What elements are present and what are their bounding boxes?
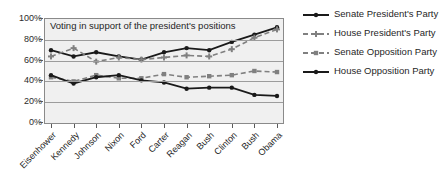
y-tick-mark bbox=[39, 18, 43, 19]
legend-label: House President's Party bbox=[334, 27, 436, 38]
y-tick-label: 100% bbox=[2, 14, 42, 23]
legend-marker-icon bbox=[302, 47, 330, 61]
data-series-layer bbox=[45, 19, 283, 123]
gridline bbox=[45, 40, 283, 41]
gridline bbox=[45, 81, 283, 82]
y-tick-mark bbox=[39, 80, 43, 81]
x-tick-mark bbox=[254, 124, 255, 128]
data-point bbox=[161, 54, 167, 60]
x-tick-mark bbox=[119, 124, 120, 128]
data-point bbox=[230, 73, 234, 77]
data-point bbox=[184, 86, 188, 90]
chart-legend: Senate President's PartyHouse President'… bbox=[302, 8, 446, 84]
x-tick-mark bbox=[164, 124, 165, 128]
data-point bbox=[94, 75, 98, 79]
x-tick-mark bbox=[187, 124, 188, 128]
x-tick-mark bbox=[232, 124, 233, 128]
data-point bbox=[275, 70, 279, 74]
x-tick-mark bbox=[96, 124, 97, 128]
data-point bbox=[48, 53, 54, 59]
chart-figure: 0%20%40%60%80%100% Voting in support of … bbox=[0, 0, 446, 188]
data-point bbox=[206, 53, 212, 59]
legend-marker-icon bbox=[302, 9, 330, 23]
data-point bbox=[207, 85, 211, 89]
chart-title: Voting in support of the president's pos… bbox=[50, 20, 236, 31]
data-point bbox=[207, 48, 211, 52]
data-point bbox=[49, 73, 53, 77]
legend-item[interactable]: House Opposition Party bbox=[302, 65, 446, 80]
data-point bbox=[230, 85, 234, 89]
gridline bbox=[45, 61, 283, 62]
y-tick-label: 20% bbox=[2, 97, 42, 106]
x-tick-mark bbox=[209, 124, 210, 128]
data-point bbox=[117, 73, 121, 77]
x-tick-mark bbox=[51, 124, 52, 128]
y-tick-mark bbox=[39, 39, 43, 40]
y-tick-mark bbox=[39, 122, 43, 123]
data-point bbox=[162, 50, 166, 54]
chart-plot-region: 0%20%40%60%80%100% Voting in support of … bbox=[0, 0, 300, 188]
data-point bbox=[184, 46, 188, 50]
legend-marker-icon bbox=[302, 28, 330, 42]
y-tick-mark bbox=[39, 101, 43, 102]
data-point bbox=[207, 74, 211, 78]
legend-item[interactable]: House President's Party bbox=[302, 27, 446, 42]
x-tick-mark bbox=[74, 124, 75, 128]
data-point bbox=[252, 93, 256, 97]
data-point bbox=[71, 54, 75, 58]
data-point bbox=[229, 46, 235, 52]
plot-box bbox=[44, 18, 284, 124]
x-tick-mark bbox=[141, 124, 142, 128]
series-4 bbox=[49, 73, 279, 98]
data-point bbox=[94, 50, 98, 54]
y-tick-mark bbox=[39, 60, 43, 61]
x-tick-mark bbox=[277, 124, 278, 128]
legend-item[interactable]: Senate President's Party bbox=[302, 8, 446, 23]
legend-marker-icon bbox=[302, 66, 330, 80]
series-2 bbox=[48, 26, 280, 64]
legend-label: Senate President's Party bbox=[334, 8, 438, 19]
legend-label: Senate Opposition Party bbox=[334, 46, 437, 57]
legend-item[interactable]: Senate Opposition Party bbox=[302, 46, 446, 61]
data-point bbox=[184, 52, 190, 58]
data-point bbox=[162, 72, 166, 76]
data-point bbox=[184, 75, 188, 79]
y-tick-label: 40% bbox=[2, 76, 42, 85]
data-point bbox=[275, 94, 279, 98]
data-point bbox=[49, 48, 53, 52]
y-tick-label: 60% bbox=[2, 56, 42, 65]
y-tick-label: 80% bbox=[2, 35, 42, 44]
data-point bbox=[252, 69, 256, 73]
gridline bbox=[45, 102, 283, 103]
x-axis-labels: EisenhowerKennedyJohnsonNixonFordCarterR… bbox=[0, 124, 300, 188]
legend-label: House Opposition Party bbox=[334, 65, 434, 76]
